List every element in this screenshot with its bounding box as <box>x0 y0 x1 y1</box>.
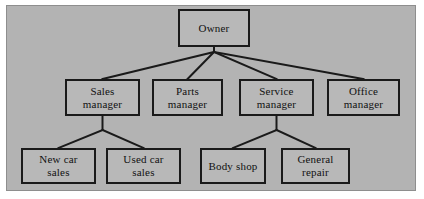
node-sales-manager-line2: manager <box>83 98 122 111</box>
node-new-car-sales-line1: New car <box>39 153 77 166</box>
node-used-car-sales-line1: Used car <box>123 153 163 166</box>
node-body-shop[interactable]: Body shop <box>200 148 266 184</box>
node-body-shop-line1: Body shop <box>208 160 257 173</box>
node-new-car-sales[interactable]: New car sales <box>21 148 96 184</box>
node-service-manager-line2: manager <box>257 98 296 111</box>
node-service-manager[interactable]: Service manager <box>239 79 314 116</box>
node-parts-manager-line2: manager <box>168 98 207 111</box>
node-used-car-sales-line2: sales <box>132 166 154 179</box>
node-sales-manager[interactable]: Sales manager <box>65 79 140 116</box>
node-general-repair-line1: General <box>297 153 333 166</box>
node-used-car-sales[interactable]: Used car sales <box>106 148 181 184</box>
node-service-manager-line1: Service <box>259 85 293 98</box>
org-chart-page: Owner Sales manager Parts manager Servic… <box>0 0 424 199</box>
node-owner-line1: Owner <box>199 22 230 35</box>
node-new-car-sales-line2: sales <box>47 166 69 179</box>
node-parts-manager-line1: Parts <box>176 85 199 98</box>
node-general-repair[interactable]: General repair <box>281 148 350 184</box>
node-parts-manager[interactable]: Parts manager <box>152 79 223 116</box>
node-office-manager[interactable]: Office manager <box>327 79 400 116</box>
node-office-manager-line2: manager <box>344 98 383 111</box>
node-general-repair-line2: repair <box>302 166 329 179</box>
node-office-manager-line1: Office <box>349 85 378 98</box>
node-owner[interactable]: Owner <box>178 9 250 47</box>
node-sales-manager-line1: Sales <box>90 85 114 98</box>
